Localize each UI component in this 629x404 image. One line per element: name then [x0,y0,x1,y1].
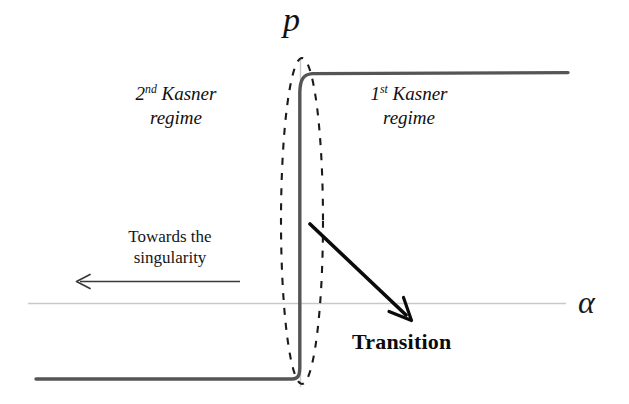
towards-singularity-label: Towards the singularity [90,228,250,268]
regime-left-ordinal-suffix: nd [145,83,157,96]
regime-right-line2: regime [336,108,482,129]
regime-right-line1-rest: Kasner [388,83,448,104]
arrows-layer [0,0,629,404]
regime-right-ordinal: 1 [370,83,380,104]
axis-label-p: p [283,2,300,39]
axis-label-alpha: α [578,285,595,320]
towards-singularity-arrow [77,275,241,289]
regime-label-second-kasner: 2nd Kasner regime [103,84,249,128]
regime-label-first-kasner: 1st Kasner regime [336,84,482,128]
regime-left-line1-rest: Kasner [157,83,217,104]
transition-label: Transition [352,330,451,354]
towards-singularity-line2: singularity [90,249,250,267]
transition-pointer-arrow [310,224,412,321]
regime-right-ordinal-suffix: st [380,83,388,96]
towards-singularity-line1: Towards the [128,227,211,246]
regime-left-ordinal: 2 [136,83,146,104]
kasner-transition-figure: p α 2nd Kasner regime 1st Kasner regime … [0,0,629,404]
regime-left-line2: regime [103,108,249,129]
